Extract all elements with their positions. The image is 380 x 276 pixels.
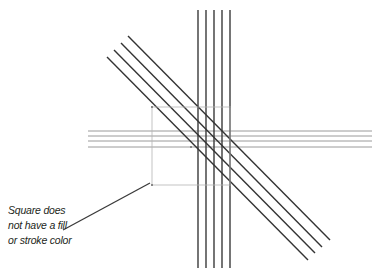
caption-line-2: not have a fill — [8, 218, 98, 233]
caption-line-1: Square does — [8, 203, 98, 218]
annotation-caption: Square does not have a fill or stroke co… — [8, 203, 98, 248]
corner-handle[interactable] — [151, 106, 153, 108]
diagonal-line — [107, 57, 308, 260]
corner-handle[interactable] — [229, 184, 231, 186]
corner-handle[interactable] — [229, 106, 231, 108]
center-point[interactable] — [190, 146, 192, 148]
caption-line-3: or stroke color — [8, 233, 98, 248]
unfilled-square-selection[interactable] — [151, 106, 231, 186]
diagonal-lines — [107, 36, 330, 260]
corner-handle[interactable] — [151, 184, 153, 186]
diagonal-line — [128, 36, 330, 240]
